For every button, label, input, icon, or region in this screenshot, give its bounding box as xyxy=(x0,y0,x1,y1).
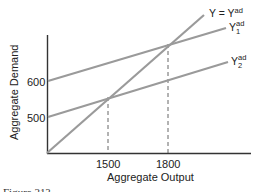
y-axis-label: Aggregate Demand xyxy=(8,45,20,140)
aggregate-demand-chart: 600 500 1500 1800 Aggregate Output Aggre… xyxy=(0,0,254,192)
label-y1-main: Y xyxy=(229,21,236,33)
y-tick-600: 600 xyxy=(27,76,45,88)
x-tick-1800: 1800 xyxy=(156,158,180,170)
label-y2-main: Y xyxy=(231,55,238,67)
label-45-sup: ad xyxy=(235,6,243,15)
x-tick-1500: 1500 xyxy=(96,158,120,170)
line-y2ad xyxy=(48,62,228,117)
label-45-main: Y = Y xyxy=(209,7,235,19)
x-axis-label: Aggregate Output xyxy=(107,171,194,183)
line-45-degree xyxy=(47,15,204,153)
y-tick-500: 500 xyxy=(27,112,45,124)
label-45-line: Y = Yad xyxy=(209,6,243,19)
label-y2-sub: 2 xyxy=(238,61,242,70)
label-y1-sub: 1 xyxy=(236,27,240,36)
figure-caption: Figure 21? xyxy=(3,186,50,192)
